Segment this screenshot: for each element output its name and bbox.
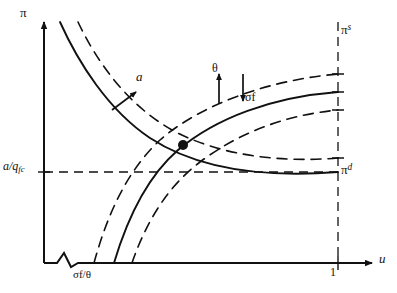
economics-diagram: π u πs πd a/qfc a θ σf σf/θ 1 [0, 0, 397, 293]
pi-s-solid-curve [114, 92, 338, 263]
diagram-canvas [0, 0, 397, 293]
y-axis-tick-label: a/qfc [3, 160, 25, 174]
pi-d-base: π [341, 162, 348, 177]
annotation-label-theta: θ [212, 62, 218, 74]
pi-s-shifted-down-sigmaf-dashed-curve [132, 110, 338, 263]
pi-d-curve-label: πd [341, 163, 352, 176]
wage-setting-curves [94, 74, 338, 263]
annotation-label-sigma-f: σf [245, 91, 255, 103]
equilibrium-point-marker [178, 140, 188, 150]
y-tick-base: a/q [3, 159, 18, 173]
axis-group [38, 22, 372, 270]
pi-s-superscript: s [348, 22, 352, 32]
pi-d-shifted-dashed-curve [78, 22, 338, 159]
y-tick-subscript: fc [18, 164, 24, 174]
x-axis-tick-label-one: 1 [330, 266, 336, 278]
reference-lines [44, 22, 338, 263]
x-axis-break-label: σf/θ [73, 269, 91, 280]
y-axis-label: π [20, 6, 27, 19]
annotation-label-a: a [136, 70, 143, 83]
pi-s-base: π [341, 22, 348, 37]
x-axis-label: u [379, 252, 386, 265]
pi-s-curve-label: πs [341, 23, 351, 36]
arrow-shift-a [112, 92, 136, 110]
shift-arrows [112, 74, 243, 110]
pi-s-shifted-up-theta-dashed-curve [94, 74, 338, 263]
x-axis-with-break [44, 253, 372, 267]
pi-d-superscript: d [348, 162, 353, 172]
